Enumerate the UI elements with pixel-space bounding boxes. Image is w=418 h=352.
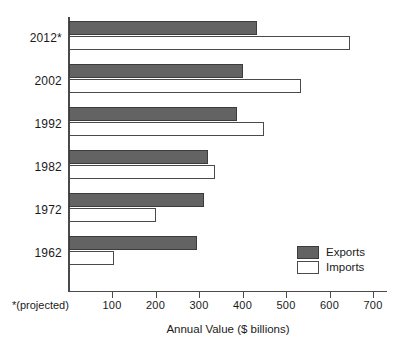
bar-imports-2012 (69, 36, 350, 50)
x-tick-100 (112, 292, 113, 298)
legend-item-imports: Imports (297, 260, 365, 275)
x-tick-600 (330, 292, 331, 298)
y-axis-label-1982: 1982 (0, 160, 62, 174)
legend: Exports Imports (297, 245, 365, 275)
x-tick-label: 700 (353, 299, 393, 311)
bar-imports-2002 (69, 79, 301, 93)
x-tick-300 (199, 292, 200, 298)
legend-swatch-imports-icon (297, 261, 319, 274)
bar-imports-1962 (69, 251, 115, 265)
bar-exports-1992 (69, 107, 237, 121)
y-axis-label-1992: 1992 (0, 117, 62, 131)
bar-exports-1972 (69, 193, 204, 207)
x-tick-label: 100 (92, 299, 132, 311)
y-axis-label-2012: 2012* (0, 31, 62, 45)
bar-imports-1982 (69, 165, 216, 179)
x-tick-700 (373, 292, 374, 298)
bar-exports-1982 (69, 150, 208, 164)
bar-imports-1992 (69, 122, 264, 136)
x-tick-label: 500 (266, 299, 306, 311)
x-axis-line (68, 291, 387, 292)
bar-chart: 100200300400500600700 2012*2002199219821… (0, 0, 418, 352)
x-tick-label: 600 (310, 299, 350, 311)
x-tick-200 (156, 292, 157, 298)
bar-exports-2002 (69, 64, 243, 78)
projected-footnote: *(projected) (12, 299, 69, 311)
x-tick-500 (286, 292, 287, 298)
y-axis-label-1962: 1962 (0, 246, 62, 260)
x-tick-400 (243, 292, 244, 298)
legend-label-imports: Imports (326, 261, 364, 274)
x-tick-label: 200 (136, 299, 176, 311)
legend-item-exports: Exports (297, 245, 365, 260)
y-axis-label-2002: 2002 (0, 74, 62, 88)
legend-swatch-exports-icon (297, 246, 319, 259)
y-axis-label-1972: 1972 (0, 203, 62, 217)
x-tick-label: 300 (179, 299, 219, 311)
bar-exports-1962 (69, 236, 198, 250)
bar-exports-2012 (69, 21, 257, 35)
bar-imports-1972 (69, 208, 156, 222)
legend-label-exports: Exports (326, 246, 365, 259)
x-tick-label: 400 (223, 299, 263, 311)
x-axis-title: Annual Value ($ billions) (68, 323, 388, 335)
